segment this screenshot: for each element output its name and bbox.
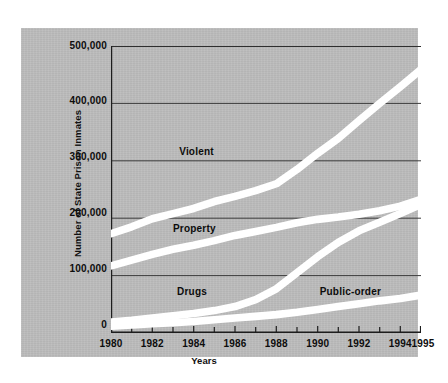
plot-area: Violent Property Drugs Public-order <box>111 46 421 333</box>
series-label-public-order: Public-order <box>320 286 381 297</box>
y-axis-tick-labels: 500,000 400,000 300,000 200,000 100,000 … <box>33 28 107 357</box>
chart-panel: Number of State Prison Inmates 500,000 4… <box>21 28 418 357</box>
x-tick-1986: 1986 <box>223 338 246 349</box>
series-label-drugs: Drugs <box>177 286 207 297</box>
y-tick-400000: 400,000 <box>35 96 107 106</box>
x-tick-1992: 1992 <box>347 338 370 349</box>
y-tick-500000: 500,000 <box>35 41 107 51</box>
series-label-violent: Violent <box>179 146 214 157</box>
x-tick-1984: 1984 <box>182 338 205 349</box>
y-tick-100000: 100,000 <box>35 264 107 274</box>
y-tick-0: 0 <box>35 320 107 330</box>
x-tick-1994: 1994 <box>389 338 412 349</box>
x-tick-1980: 1980 <box>99 338 122 349</box>
gridlines <box>111 47 421 276</box>
chart-figure: Number of State Prison Inmates 500,000 4… <box>0 0 448 383</box>
x-axis-tick-labels: 1980 1982 1984 1986 1988 1990 1992 1994 … <box>111 338 421 354</box>
series-line-property <box>111 199 421 266</box>
x-tick-1995: 1995 <box>411 338 434 349</box>
x-axis-title-text: Years <box>191 355 216 366</box>
x-tick-1988: 1988 <box>265 338 288 349</box>
y-tick-300000: 300,000 <box>35 152 107 162</box>
y-tick-200000: 200,000 <box>35 208 107 218</box>
x-tick-1982: 1982 <box>141 338 164 349</box>
series-label-property: Property <box>173 223 216 234</box>
x-tick-1990: 1990 <box>306 338 329 349</box>
series-line-public-order <box>111 295 421 326</box>
x-axis-title: Years <box>111 355 421 366</box>
